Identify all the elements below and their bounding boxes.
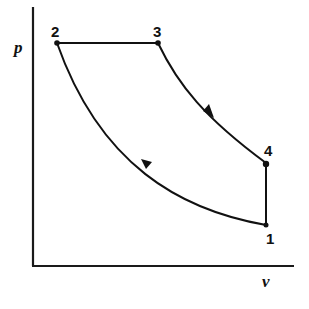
state-point-2 [54, 40, 60, 46]
state-label-4: 4 [264, 142, 273, 159]
state-point-3 [155, 40, 161, 46]
state-point-4 [263, 161, 269, 167]
state-point-1 [264, 223, 269, 228]
arrow-icon-1-2 [141, 159, 152, 169]
state-label-2: 2 [51, 23, 59, 40]
process-3-4 [158, 43, 266, 163]
pv-diagram: p v 2 3 4 1 [0, 0, 309, 309]
x-axis-label: v [262, 272, 270, 291]
process-1-2 [57, 43, 266, 225]
state-label-1: 1 [266, 230, 274, 247]
y-axis-label: p [12, 38, 23, 57]
state-label-3: 3 [153, 23, 161, 40]
